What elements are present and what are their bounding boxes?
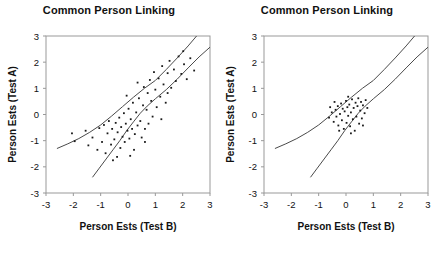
scatter-point [338, 130, 340, 132]
scatter-point [156, 106, 158, 108]
scatter-point [189, 57, 191, 59]
scatter-point [182, 50, 184, 52]
scatter-point [159, 96, 161, 98]
x-tick-label: 3 [425, 199, 430, 210]
x-axis-label: Person Ests (Test B) [79, 221, 176, 232]
scatter-point [361, 118, 363, 120]
scatter-point [165, 102, 167, 104]
scatter-point [128, 108, 130, 110]
plot-frame [46, 36, 210, 193]
x-tick-label: 0 [125, 199, 130, 210]
scatter-point [153, 71, 155, 73]
scatter-point [122, 136, 124, 138]
scatter-point [138, 97, 140, 99]
scatter-point [342, 108, 344, 110]
scatter-point [152, 116, 154, 118]
scatter-point [127, 130, 129, 132]
scatter-point [353, 107, 355, 109]
scatter-point [148, 123, 150, 125]
scatter-point [118, 117, 120, 119]
y-axis-label: Person Ests (Test A) [7, 66, 18, 163]
scatter-point [112, 159, 114, 161]
scatter-point [146, 109, 148, 111]
scatter-point [362, 104, 364, 106]
right-chart-svg: -3-2-101233210-1-2-3Person Ests (Test B)… [218, 0, 436, 255]
scatter-point [354, 130, 356, 132]
x-tick-label: 1 [153, 199, 158, 210]
y-tick-label: 1 [252, 83, 257, 94]
y-tick-label: -3 [31, 188, 39, 199]
scatter-point [158, 77, 160, 79]
plot-frame [264, 36, 428, 193]
y-tick-label: -1 [249, 135, 257, 146]
x-tick-label: -3 [42, 199, 50, 210]
x-tick-label: 0 [343, 199, 348, 210]
x-axis-label: Person Ests (Test B) [297, 221, 394, 232]
scatter-point [334, 101, 336, 103]
scatter-point [85, 130, 87, 132]
scatter-point [359, 110, 361, 112]
scatter-point [167, 72, 169, 74]
scatter-point [349, 125, 351, 127]
scatter-point [343, 128, 345, 130]
scatter-point [351, 98, 353, 100]
scatter-point [71, 132, 73, 134]
scatter-point [366, 107, 368, 109]
scatter-point [128, 138, 130, 140]
scatter-point [337, 125, 339, 127]
scatter-point [186, 78, 188, 80]
y-axis-label: Person Ests (Test A) [225, 66, 236, 163]
scatter-point [110, 144, 112, 146]
scatter-point [96, 149, 98, 151]
scatter-point [130, 118, 132, 120]
scatter-point [129, 155, 131, 157]
scatter-point [103, 124, 105, 126]
x-tick-label: -2 [287, 199, 295, 210]
scatter-point [357, 105, 359, 107]
scatter-point [193, 70, 195, 72]
scatter-point [170, 87, 172, 89]
scatter-point [336, 116, 338, 118]
scatter-point [355, 116, 357, 118]
scatter-point [362, 125, 364, 127]
y-tick-label: 0 [34, 109, 39, 120]
x-tick-label: -2 [69, 199, 77, 210]
scatter-point [333, 121, 335, 123]
scatter-point [183, 63, 185, 65]
scatter-point [144, 141, 146, 143]
scatter-point [340, 103, 342, 105]
scatter-point [344, 110, 346, 112]
scatter-point [143, 86, 145, 88]
scatter-point [134, 133, 136, 135]
scatter-point [355, 102, 357, 104]
scatter-point [160, 118, 162, 120]
x-tick-label: -1 [96, 199, 104, 210]
left-chart-svg: -3-2-101233210-1-2-3Person Ests (Test B)… [0, 0, 218, 255]
scatter-point [341, 119, 343, 121]
scatter-point [352, 118, 354, 120]
scatter-point [360, 101, 362, 103]
y-tick-label: 2 [252, 57, 257, 68]
scatter-point [357, 97, 359, 99]
scatter-point [141, 137, 143, 139]
scatter-point [74, 140, 76, 142]
scatter-point [350, 132, 352, 134]
left-panel: Common Person Linking -3-2-101233210-1-2… [0, 0, 218, 255]
scatter-point [347, 115, 349, 117]
scatter-point [175, 80, 177, 82]
scatter-point [115, 122, 117, 124]
scatter-point [346, 106, 348, 108]
y-tick-label: -3 [249, 188, 257, 199]
scatter-point [87, 144, 89, 146]
scatter-point [101, 141, 103, 143]
y-tick-label: -1 [31, 135, 39, 146]
scatter-point [116, 156, 118, 158]
scatter-point [328, 117, 330, 119]
scatter-point [337, 105, 339, 107]
scatter-point [329, 106, 331, 108]
y-tick-label: -2 [31, 161, 39, 172]
scatter-point [335, 109, 337, 111]
scatter-point [147, 92, 149, 94]
scatter-point [364, 112, 366, 114]
x-tick-label: -3 [260, 199, 268, 210]
